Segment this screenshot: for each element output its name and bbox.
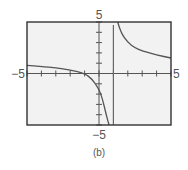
y-min-label: −5 [92, 128, 106, 142]
y-max-label: 5 [96, 8, 103, 22]
figure-caption: (b) [93, 147, 105, 158]
x-max-label: 5 [173, 67, 180, 81]
x-min-label: −5 [11, 67, 25, 81]
rational-function-graph: 5 −5 −5 5 (b) [0, 0, 188, 170]
